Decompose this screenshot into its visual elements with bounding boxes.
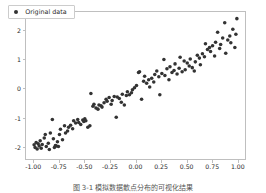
scatter-point (79, 123, 83, 127)
scatter-point (191, 66, 195, 70)
scatter-point (224, 51, 228, 55)
scatter-point (175, 72, 179, 76)
x-tick-label: -1.00 (25, 163, 41, 170)
scatter-point (234, 32, 238, 36)
scatter-point (180, 70, 184, 74)
scatter-point (69, 124, 73, 128)
scatter-point (57, 145, 61, 149)
scatter-point (35, 147, 39, 151)
scatter-point (59, 128, 63, 132)
scatter-point (160, 72, 164, 76)
scatter-point (199, 63, 203, 67)
scatter-point (96, 107, 100, 111)
scatter-point (216, 30, 220, 34)
scatter-point (145, 81, 149, 85)
scatter-point (143, 75, 147, 79)
scatter-point (233, 46, 237, 50)
scatter-point (178, 55, 182, 59)
scatter-point (56, 140, 60, 144)
x-tick-label: -0.75 (51, 163, 67, 170)
plot-axes (25, 11, 246, 160)
scatter-point (188, 57, 192, 61)
scatter-point (153, 73, 157, 77)
scatter-point (231, 28, 235, 32)
scatter-point (229, 41, 233, 45)
scatter-point (39, 147, 43, 151)
scatter-point (118, 97, 122, 101)
scatter-point (183, 68, 187, 72)
scatter-point (208, 46, 212, 50)
y-tick-mark (23, 30, 26, 31)
scatter-point (177, 66, 181, 70)
y-tick-label: 1 (0, 56, 21, 63)
scatter-point (138, 70, 142, 74)
scatter-point (213, 54, 217, 58)
scatter-point (228, 34, 232, 38)
y-tick-label: -2 (0, 143, 21, 150)
scatter-point (61, 138, 65, 142)
scatter-point (126, 90, 130, 94)
scatter-point (135, 84, 139, 88)
scatter-point (194, 60, 198, 64)
scatter-point (63, 124, 67, 128)
scatter-point (235, 17, 239, 21)
scatter-point (43, 133, 47, 137)
scatter-point (48, 148, 52, 152)
scatter-point (121, 92, 125, 96)
scatter-point (147, 78, 151, 82)
y-tick-mark (23, 118, 26, 119)
scatter-point (173, 62, 177, 66)
legend: Original data (8, 5, 75, 19)
x-tick-label: 0.25 (154, 163, 168, 170)
y-tick-mark (23, 59, 26, 60)
legend-marker-icon (14, 10, 18, 14)
scatter-point (211, 44, 215, 48)
x-tick-label: 0.00 (129, 163, 143, 170)
scatter-point (110, 99, 114, 103)
matplotlib-figure: -1.00-0.75-0.50-0.250.000.250.500.751.00… (0, 0, 266, 193)
scatter-point (162, 58, 166, 62)
scatter-point (155, 69, 159, 73)
y-tick-mark (23, 147, 26, 148)
scatter-point (185, 61, 189, 65)
scatter-point (52, 137, 56, 141)
scatter-point (226, 38, 230, 42)
scatter-point (66, 129, 70, 133)
scatter-point (158, 93, 162, 97)
scatter-point (201, 52, 205, 56)
y-tick-mark (23, 88, 26, 89)
scatter-point (123, 103, 127, 107)
scatter-point (88, 124, 92, 128)
scatter-point (112, 95, 116, 99)
y-tick-label: -1 (0, 114, 21, 121)
scatter-point (209, 50, 213, 54)
scatter-point (42, 136, 46, 140)
x-tick-label: 0.75 (205, 163, 219, 170)
scatter-point (223, 21, 227, 25)
scatter-point (150, 77, 154, 81)
scatter-point (92, 102, 96, 106)
scatter-point (38, 139, 42, 143)
scatter-point (114, 115, 118, 119)
scatter-point (107, 96, 111, 100)
scatter-point (157, 75, 161, 79)
scatter-point (40, 143, 44, 147)
scatter-point (182, 59, 186, 63)
y-tick-label: 0 (0, 85, 21, 92)
scatter-point (58, 133, 62, 137)
scatter-point (167, 78, 171, 82)
scatter-point (219, 43, 223, 47)
figure-caption: 图 3-1 模拟数据散点分布的可视化结果 (0, 182, 266, 192)
scatter-point (89, 92, 93, 96)
scatter-point (196, 53, 200, 57)
scatter-point (204, 42, 208, 46)
scatter-point (45, 145, 49, 149)
scatter-point (84, 119, 88, 123)
x-tick-label: 0.50 (180, 163, 194, 170)
scatter-point (165, 67, 169, 71)
scatter-point (187, 64, 191, 68)
scatter-point (51, 118, 55, 122)
scatter-point (163, 74, 167, 78)
scatter-point (74, 121, 78, 125)
scatter-point (203, 55, 207, 59)
